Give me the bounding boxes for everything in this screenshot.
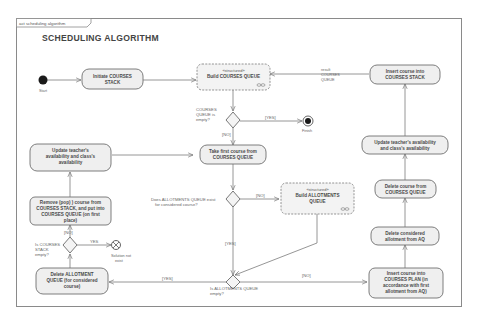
node-text: Build COURSES QUEUE: [207, 74, 260, 79]
action-delete-allotment-queue[interactable]: Delete ALLOTMENT QUEUE (for considered c…: [36, 268, 108, 294]
action-insert-into-courses-plan[interactable]: Insert course into COURSES PLAN (in acco…: [369, 268, 443, 298]
node-text: course): [64, 284, 81, 289]
node-text: Delete course from: [385, 184, 427, 189]
node-text: COURSES QUEUE (on first: [41, 212, 100, 217]
guard-yes: [YES]: [225, 241, 236, 246]
solution-not-exist-label: Solution not: [111, 254, 132, 258]
node-text: Take first course from: [209, 149, 257, 154]
stereotype-text: «structured»: [222, 68, 245, 73]
node-text: Update teacher's availability: [374, 140, 436, 145]
decision-label: for considered course?: [155, 202, 198, 207]
guard-no: [NO]: [64, 230, 73, 235]
solution-not-exist-label: exist: [115, 259, 124, 263]
node-text: place): [64, 218, 78, 223]
node-text: COURSES STACK, and put into: [36, 206, 105, 211]
guard-no: [NO]: [256, 193, 265, 198]
frame-tab-label: act scheduling algorithm: [19, 21, 66, 26]
node-text: COURSES STACK: [385, 75, 425, 80]
structured-build-courses-queue[interactable]: «structured» Build COURSES QUEUE: [197, 64, 270, 90]
node-text: Delete ALLOTMENT: [50, 272, 93, 277]
action-insert-into-courses-stack[interactable]: Insert course into COURSES STACK: [370, 65, 440, 84]
action-delete-course-from-queue[interactable]: Delete course from COURSES QUEUE: [375, 180, 436, 198]
node-text: availability and class's: [46, 154, 96, 159]
guard-yes: [YES]: [162, 276, 173, 281]
action-take-first-course[interactable]: Take first course from COURSES QUEUE: [200, 145, 266, 164]
action-update-availability-left[interactable]: Update teacher's availability and class'…: [30, 144, 111, 171]
finish-label: Finish: [302, 129, 312, 133]
result-label: QUEUE: [321, 78, 335, 82]
node-text: and class's availability: [380, 146, 430, 151]
node-text: Insert course into: [386, 69, 425, 74]
node-text: STACK: [105, 80, 121, 85]
node-text: QUEUE (for considered: [46, 278, 97, 283]
guard-no: [NO]: [222, 132, 231, 137]
node-text: allotment from AQ): [385, 289, 427, 294]
node-text: QUEUE: [309, 199, 325, 204]
node-text: Initiate COURSES: [93, 74, 132, 79]
action-initiate-courses-stack[interactable]: Initiate COURSES STACK: [82, 69, 143, 89]
decision-label: empty?: [196, 117, 210, 122]
node-text: COURSES PLAN (in: [384, 277, 428, 282]
guard-yes: [YES]: [265, 115, 276, 120]
diagram-title: SCHEDULING ALGORITHM: [42, 33, 159, 43]
stereotype-text: «structured»: [306, 187, 329, 192]
action-delete-allotment-from-aq[interactable]: Delete considered allotment from AQ: [371, 227, 439, 245]
activity-diagram: act scheduling algorithm SCHEDULING ALGO…: [0, 0, 477, 321]
action-remove-pop-course[interactable]: Remove (pop) ) course from COURSES STACK…: [30, 197, 111, 225]
node-text: Update teacher's: [52, 148, 89, 153]
node-text: Build ALLOTMENTS: [296, 193, 340, 198]
guard-no: [NO]: [302, 273, 311, 278]
result-label: result: [321, 68, 331, 72]
node-text: Delete considered: [385, 231, 425, 236]
node-text: allotment from AQ: [385, 237, 425, 242]
node-text: Remove (pop) ) course from: [40, 200, 101, 205]
node-text: accordance with first: [383, 283, 429, 288]
node-text: Insert course into: [387, 271, 426, 276]
node-text: COURSES QUEUE: [385, 190, 425, 195]
decision-label: empty?: [35, 252, 49, 257]
structured-build-allotments-queue[interactable]: «structured» Build ALLOTMENTS QUEUE: [281, 183, 354, 214]
guard-yes: YES: [90, 239, 99, 244]
result-label: COURSES: [321, 73, 340, 77]
decision-label: empty?: [210, 291, 224, 296]
node-text: availability: [59, 160, 83, 165]
start-label: Start: [39, 89, 48, 93]
action-update-availability-right[interactable]: Update teacher's availability and class'…: [362, 136, 448, 154]
node-text: COURSES QUEUE: [213, 155, 253, 160]
